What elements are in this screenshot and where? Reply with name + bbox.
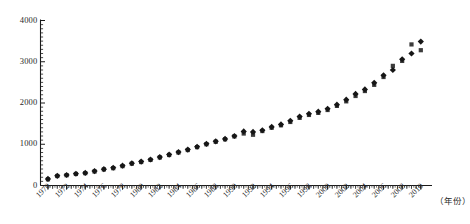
data-point bbox=[371, 80, 377, 86]
data-point bbox=[222, 136, 228, 142]
data-point bbox=[250, 129, 256, 135]
data-point bbox=[166, 151, 172, 157]
data-point bbox=[73, 171, 79, 177]
data-point bbox=[213, 138, 219, 144]
data-point bbox=[138, 158, 144, 164]
data-point bbox=[334, 102, 340, 108]
data-point bbox=[362, 86, 368, 92]
data-point bbox=[408, 50, 414, 56]
x-axis-unit-label: （年份） bbox=[435, 194, 470, 206]
data-point bbox=[157, 154, 163, 160]
data-point bbox=[101, 166, 107, 172]
data-point bbox=[91, 168, 97, 174]
data-point bbox=[259, 127, 265, 133]
data-point bbox=[110, 165, 116, 171]
data-point bbox=[231, 133, 237, 139]
data-point bbox=[352, 91, 358, 97]
data-point bbox=[241, 128, 247, 134]
y-axis-tick-label: 2000 bbox=[20, 97, 38, 107]
data-point bbox=[380, 72, 386, 78]
data-point bbox=[64, 172, 70, 178]
data-point bbox=[343, 97, 349, 103]
data-series-square bbox=[46, 42, 423, 181]
data-point bbox=[82, 170, 88, 176]
data-point bbox=[390, 67, 396, 73]
y-axis-tick-label: 3000 bbox=[20, 56, 38, 66]
data-point bbox=[54, 173, 60, 179]
data-point bbox=[129, 160, 135, 166]
data-point bbox=[203, 141, 209, 147]
data-series-diamond bbox=[45, 38, 424, 182]
data-point bbox=[325, 106, 331, 112]
data-point bbox=[175, 149, 181, 155]
data-point bbox=[399, 56, 405, 62]
data-point bbox=[419, 48, 423, 52]
y-axis-tick-label: 0 bbox=[33, 180, 37, 190]
data-point bbox=[194, 144, 200, 150]
data-point bbox=[306, 111, 312, 117]
data-point bbox=[147, 156, 153, 162]
data-point bbox=[297, 114, 303, 120]
data-point bbox=[269, 124, 275, 130]
y-axis-tick-label: 4000 bbox=[20, 15, 38, 25]
data-point bbox=[418, 38, 424, 44]
data-point bbox=[287, 118, 293, 124]
data-point bbox=[315, 109, 321, 115]
data-point bbox=[409, 42, 413, 46]
data-point bbox=[185, 147, 191, 153]
y-axis-tick-label: 1000 bbox=[20, 138, 38, 148]
data-point bbox=[119, 163, 125, 169]
data-point bbox=[278, 121, 284, 127]
